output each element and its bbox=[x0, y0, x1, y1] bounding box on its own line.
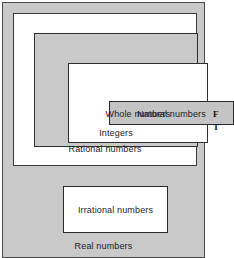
caption-line-2: T bbox=[213, 121, 230, 134]
set-region-integers: Natural numbers Whole numbers Integers bbox=[34, 33, 198, 147]
set-region-real-numbers: Natural numbers Whole numbers Integers R… bbox=[2, 2, 205, 258]
figure-caption-fragment: F T bbox=[213, 108, 230, 134]
caption-line-1: F bbox=[213, 108, 230, 121]
label-irrational-numbers: Irrational numbers bbox=[64, 206, 167, 215]
label-whole-numbers: Whole numbers bbox=[69, 110, 207, 119]
label-integers: Integers bbox=[35, 129, 197, 138]
label-real-numbers: Real numbers bbox=[3, 242, 204, 251]
set-region-rational-numbers: Natural numbers Whole numbers Integers R… bbox=[13, 13, 197, 166]
set-region-irrational-numbers: Irrational numbers bbox=[63, 186, 168, 233]
label-rational-numbers: Rational numbers bbox=[14, 145, 196, 154]
